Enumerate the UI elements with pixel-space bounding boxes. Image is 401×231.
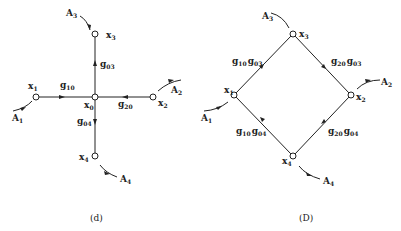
label-x1: x1 (28, 81, 38, 92)
label-g10: g10 (60, 80, 75, 91)
label-x4: x4 (79, 152, 89, 163)
label-g20-g03: g20g03 (331, 56, 361, 67)
node-x3 (92, 31, 98, 37)
label-x3: x3 (299, 29, 309, 40)
arrow-right-icon (59, 95, 65, 99)
arrow-icon (216, 106, 222, 110)
edge-x4-x1 (236, 97, 291, 154)
diagram-d: x3 x1 x0 x2 x4 g10 g20 g03 g04 A3 A2 A1 … (11, 8, 182, 223)
label-a1: A1 (200, 113, 212, 124)
label-a2: A2 (170, 85, 182, 96)
diagrams-canvas: x3 x1 x0 x2 x4 g10 g20 g03 g04 A3 A2 A1 … (0, 0, 401, 231)
node-x4 (92, 153, 98, 159)
node-x3 (290, 31, 296, 37)
label-a1: A1 (11, 113, 23, 124)
node-x1 (33, 94, 39, 100)
label-g10-g04: g10g04 (236, 126, 266, 137)
edge-x4-x2 (295, 97, 349, 154)
label-g20: g20 (118, 99, 133, 110)
input-curve-a3 (271, 13, 289, 28)
input-curve-a1 (204, 102, 228, 111)
arrow-down-icon (93, 119, 97, 125)
label-g04: g04 (77, 116, 92, 127)
arrow-icon (87, 24, 91, 30)
label-a2: A2 (380, 77, 392, 88)
input-curve-a4 (100, 165, 117, 177)
node-x2 (348, 92, 354, 98)
label-x3: x3 (106, 30, 116, 41)
node-x2 (150, 94, 156, 100)
label-g03: g03 (100, 59, 115, 70)
label-a4: A4 (119, 174, 131, 185)
label-x2: x2 (356, 92, 366, 103)
arrow-up-icon (93, 60, 97, 66)
input-curve-a3 (80, 16, 90, 30)
label-x0: x0 (84, 100, 94, 111)
caption-D: (D) (299, 213, 313, 223)
node-x4 (290, 153, 296, 159)
input-curve-a4 (299, 166, 320, 179)
label-g10-g03: g10g03 (232, 56, 262, 67)
label-a3: A3 (65, 8, 77, 19)
label-a4: A4 (322, 176, 334, 187)
arrow-icon (260, 117, 265, 122)
caption-d: (d) (90, 213, 103, 223)
label-x2: x2 (158, 98, 168, 109)
node-x0 (92, 94, 98, 100)
diagram-D: x3 x1 x2 x4 g10g03 g20g03 g10g04 g20g04 … (200, 11, 392, 223)
label-x1: x1 (224, 85, 234, 96)
arrow-icon (20, 107, 26, 111)
label-g20-g04: g20g04 (328, 126, 358, 137)
